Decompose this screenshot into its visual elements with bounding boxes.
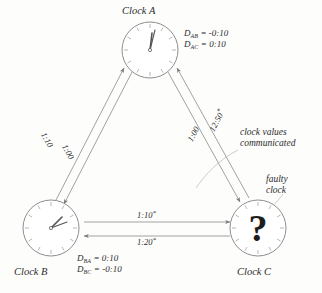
offset-d-ac: DAC = 0:10 xyxy=(184,39,228,50)
clock-b-face xyxy=(23,200,79,256)
clock-c-title: Clock C xyxy=(237,266,271,278)
annotation-clock-values-communicated: clock values communicated xyxy=(240,127,295,149)
offset-subscript: BC xyxy=(84,269,92,275)
offset-d-ba: DBA = 0:10 xyxy=(77,253,122,264)
edge-label-b-to-c: 1:10* xyxy=(137,209,156,221)
offset-d-bc: DBC = -0:10 xyxy=(77,264,122,275)
arrow-b-to-a xyxy=(56,68,124,200)
clock-sync-diagram: ? Clock A Clock B Clock C DAB = -0:10 DA… xyxy=(0,0,322,293)
leader-line-communicated xyxy=(196,150,238,188)
offset-d-ab: DAB = -0:10 xyxy=(184,28,228,39)
offset-subscript: BA xyxy=(84,258,92,264)
edge-b-c xyxy=(84,222,230,236)
edge-label-text: 1:20 xyxy=(137,237,153,247)
edge-label-text: 1:10 xyxy=(137,210,153,220)
offset-subscript: AB xyxy=(191,33,199,39)
offset-value: 0:10 xyxy=(102,253,119,263)
annotation-line-2: clock xyxy=(266,185,288,196)
arrow-a-to-b xyxy=(64,72,132,204)
faulty-clock-question-mark: ? xyxy=(249,207,268,249)
annotation-faulty-clock: faulty clock xyxy=(266,174,288,196)
star-symbol: * xyxy=(153,209,157,217)
clock-a-face xyxy=(122,22,178,78)
edge-label-c-to-b: 1:20* xyxy=(137,236,156,248)
offset-subscript: AC xyxy=(191,44,199,50)
offset-value: -0:10 xyxy=(102,264,122,274)
clock-a-title: Clock A xyxy=(122,5,155,17)
offset-equals: = xyxy=(200,28,206,38)
clock-a-offsets: DAB = -0:10 DAC = 0:10 xyxy=(184,28,228,51)
annotation-line-1: faulty xyxy=(266,174,288,185)
offset-equals: = xyxy=(201,39,207,49)
offset-equals: = xyxy=(94,264,100,274)
edge-a-b xyxy=(56,68,132,204)
annotation-line-2: communicated xyxy=(240,138,295,149)
clock-b-title: Clock B xyxy=(14,266,48,278)
offset-value: 0:10 xyxy=(209,39,226,49)
star-symbol: * xyxy=(153,236,157,244)
annotation-line-1: clock values xyxy=(240,127,295,138)
clock-c-face: ? xyxy=(230,200,286,256)
offset-value: -0:10 xyxy=(209,28,229,38)
clock-b-offsets: DBA = 0:10 DBC = -0:10 xyxy=(77,253,122,276)
offset-equals: = xyxy=(93,253,99,263)
arrow-a-to-c xyxy=(168,72,240,202)
edge-a-c xyxy=(168,68,249,202)
